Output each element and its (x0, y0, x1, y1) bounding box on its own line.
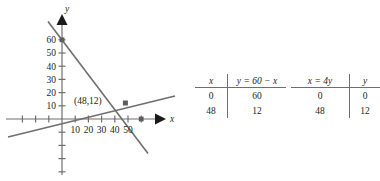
x-tick-label-40: 40 (110, 125, 120, 135)
table-row: 48 12 (195, 103, 286, 118)
table-left-r1-c0: 48 (195, 103, 228, 118)
x-axis-arrow-icon (155, 114, 166, 125)
y-tick-label-60: 60 (47, 35, 57, 45)
marker-0-60 (60, 37, 65, 42)
x-tick-label-50: 50 (123, 125, 133, 135)
y-axis-label: y (64, 4, 70, 14)
table-row: x = 4y y (291, 74, 380, 88)
marker-60-0 (139, 117, 144, 122)
table-right-r0-c0: 0 (291, 88, 350, 104)
table-x-equals-4y: x = 4y y 0 0 48 12 (291, 74, 380, 118)
table-row: x y = 60 − x (195, 74, 286, 88)
table-left-body: 0 60 48 12 (195, 88, 286, 119)
y-tick-label-20: 20 (47, 88, 57, 98)
x-tick-label-10: 10 (70, 125, 80, 135)
table-left-header: x y = 60 − x (195, 74, 286, 88)
table-left-r0-c1: 60 (228, 88, 287, 104)
y-tick-label-40: 40 (47, 62, 57, 72)
y-axis-arrow-icon (57, 14, 68, 25)
table-left-r0-c0: 0 (195, 88, 228, 104)
table-right-r1-c1: 12 (350, 103, 380, 118)
y-tick-label-30: 30 (47, 75, 57, 85)
table-row: 0 60 (195, 88, 286, 104)
table-y-equals-60-minus-x: x y = 60 − x 0 60 48 12 (195, 74, 286, 118)
tables-panel: x y = 60 − x 0 60 48 12 x = 4y y (185, 0, 371, 181)
x-tick-label-30: 30 (97, 125, 107, 135)
table-right-header: x = 4y y (291, 74, 380, 88)
table-row: 48 12 (291, 103, 380, 118)
graph-svg: 60 50 40 30 20 10 10 20 30 40 50 y x (48… (0, 0, 185, 181)
y-tick-label-50: 50 (47, 48, 57, 58)
table-left-header-equation: y = 60 − x (228, 74, 287, 88)
table-left-header-x: x (195, 74, 228, 88)
y-tick-label-10: 10 (47, 101, 57, 111)
table-right-body: 0 0 48 12 (291, 88, 380, 119)
table-left-r1-c1: 12 (228, 103, 287, 118)
x-axis-label: x (169, 114, 175, 124)
table-row: 0 0 (291, 88, 380, 104)
x-tick-label-20: 20 (84, 125, 94, 135)
table-right-header-y: y (350, 74, 380, 88)
table-right-r1-c0: 48 (291, 103, 350, 118)
table-right-header-equation: x = 4y (291, 74, 350, 88)
marker-48-12 (123, 101, 128, 106)
coordinate-graph: 60 50 40 30 20 10 10 20 30 40 50 y x (48… (0, 0, 185, 181)
intersection-point-label: (48,12) (74, 96, 102, 107)
table-right-r0-c1: 0 (350, 88, 380, 104)
